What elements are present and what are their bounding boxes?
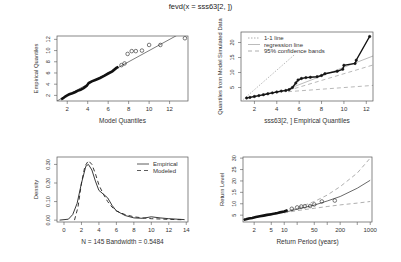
data-point — [147, 43, 151, 47]
return-level-line — [243, 180, 370, 219]
data-point — [320, 74, 322, 76]
legend-label: regression line — [264, 42, 304, 48]
lower-95-ci-line — [284, 202, 370, 213]
x-tick-label: 10 — [146, 106, 153, 112]
data-point — [291, 86, 293, 88]
y-tick-label: 10 — [231, 201, 237, 207]
x-tick-label: 0 — [62, 227, 66, 233]
return-level-plot: 251050200100051015202530Return Period (y… — [219, 155, 378, 246]
data-point — [342, 68, 344, 70]
x-tick-label: 4 — [86, 106, 90, 112]
plot-frame — [241, 32, 373, 101]
x-tick-label: 8 — [132, 227, 136, 233]
data-point — [280, 90, 282, 92]
data-point — [354, 62, 356, 64]
data-point — [324, 73, 326, 75]
x-axis: 02468101214 — [62, 222, 190, 233]
data-point — [276, 91, 278, 93]
x-tick-label: 5 — [270, 227, 274, 233]
x-tick-label: 2 — [253, 106, 257, 112]
y-tick-label: 5 — [231, 214, 237, 217]
x-tick-label: 2 — [252, 227, 256, 233]
y-axis-label: Return Level — [219, 173, 225, 206]
x-tick-label: 200 — [335, 227, 346, 233]
one-to-one-line — [243, 55, 295, 100]
data-point — [300, 77, 302, 79]
y-axis-label: Density — [33, 180, 39, 199]
x-tick-label: 12 — [165, 227, 172, 233]
y-tick-label: 30 — [231, 155, 237, 161]
y-tick-label: 5 — [229, 86, 235, 89]
data-point — [245, 97, 247, 99]
y-tick-label: 0.10 — [45, 196, 51, 207]
data-point — [288, 88, 290, 90]
y-axis: 5101520 — [229, 39, 241, 89]
data-point — [336, 70, 338, 72]
x-tick-label: 4 — [97, 227, 101, 233]
y-tick-label: 2 — [45, 94, 51, 97]
y-tick-label: 0.30 — [45, 159, 51, 170]
legend-label: Empirical — [153, 161, 178, 167]
x-tick-label: 50 — [311, 227, 318, 233]
data-point — [309, 76, 311, 78]
legend-label: 95% confidence bands — [264, 48, 325, 54]
density-plot: 024681012140.000.100.200.30N = 145 Bandw… — [33, 157, 190, 245]
data-point — [285, 89, 287, 91]
data-point — [253, 95, 255, 97]
data-point — [355, 59, 357, 61]
data-point — [316, 76, 318, 78]
data-point — [140, 49, 144, 53]
y-tick-label: 8 — [45, 60, 51, 63]
plot-area — [243, 158, 370, 220]
data-point — [183, 36, 187, 40]
x-tick-label: 6 — [115, 227, 119, 233]
x-tick-label: 10 — [281, 227, 288, 233]
x-tick-label: 10 — [341, 106, 348, 112]
legend-label: 1-1 line — [264, 35, 284, 41]
data-point — [297, 79, 299, 81]
x-tick-label: 12 — [363, 106, 370, 112]
data-point — [262, 94, 264, 96]
data-point — [305, 76, 307, 78]
data-point — [134, 49, 138, 53]
upper-95-ci-line — [284, 158, 370, 212]
y-tick-label: 0.20 — [45, 178, 51, 189]
x-tick-label: 6 — [297, 106, 301, 112]
legend: EmpiricalModeled — [137, 161, 178, 174]
y-axis-label: Empirical Quantiles — [33, 43, 39, 93]
data-point — [333, 199, 337, 203]
x-tick-label: 12 — [166, 106, 173, 112]
data-point — [368, 35, 370, 37]
x-axis: 24681012 — [66, 101, 174, 112]
data-point — [295, 82, 297, 84]
data-point — [258, 94, 260, 96]
qq-plot-model-vs-empirical: 2468101224681012Model QuantilesEmpirical… — [33, 29, 188, 125]
y-tick-label: 4 — [45, 83, 51, 86]
x-axis: 24681012 — [253, 101, 371, 112]
data-point — [267, 93, 269, 95]
x-axis: 2510502001000 — [252, 222, 377, 233]
y-tick-label: 15 — [231, 189, 237, 195]
x-tick-label: 8 — [320, 106, 324, 112]
data-point — [130, 49, 134, 53]
data-point — [271, 92, 273, 94]
x-tick-label: 2 — [66, 106, 70, 112]
y-tick-label: 10 — [45, 48, 51, 54]
y-tick-label: 10 — [229, 69, 235, 75]
y-tick-label: 15 — [229, 54, 235, 60]
x-tick-label: 6 — [107, 106, 111, 112]
x-tick-label: 1000 — [364, 227, 378, 233]
x-tick-label: 4 — [275, 106, 279, 112]
plot-frame — [243, 157, 372, 222]
plot-area — [243, 35, 373, 99]
y-axis: 0.000.100.200.30 — [45, 159, 57, 225]
y-axis: 24681012 — [45, 36, 57, 97]
lower-confidence-band — [288, 85, 373, 91]
x-tick-label: 10 — [148, 227, 155, 233]
data-point — [249, 96, 251, 98]
x-axis-label: sss63[2, ] Empirical Quantiles — [264, 117, 350, 125]
y-axis-label: Quantiles from Model Simulated Data — [217, 18, 223, 115]
y-tick-label: 20 — [229, 39, 235, 45]
y-tick-label: 0.00 — [45, 215, 51, 226]
y-tick-label: 25 — [231, 166, 237, 172]
